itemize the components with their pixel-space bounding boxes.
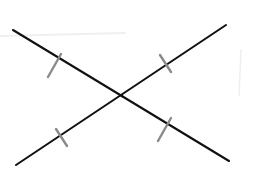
congruent-segments-diagram <box>0 0 253 169</box>
x-diagram-svg <box>0 0 253 169</box>
line-segments <box>13 25 229 165</box>
faint-stroke-mark <box>239 50 241 96</box>
intersection-point <box>121 95 123 97</box>
tick-mark-descending-1 <box>48 54 61 77</box>
segment-ascending <box>16 25 226 165</box>
scan-artifacts <box>0 33 241 96</box>
